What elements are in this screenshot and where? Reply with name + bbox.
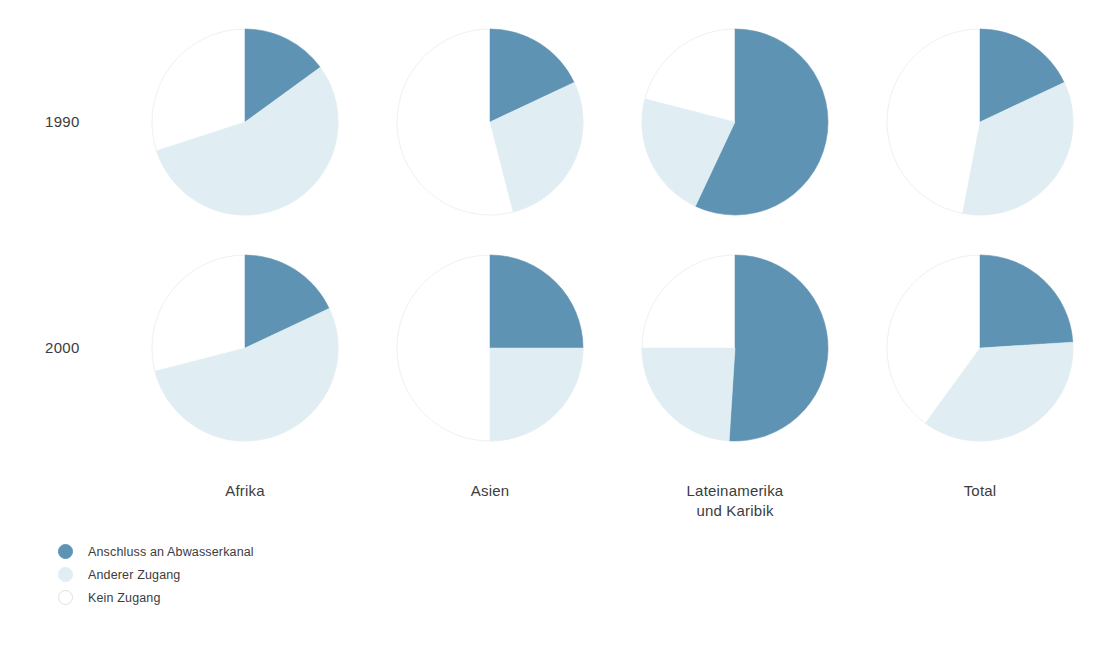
pie-matrix-figure: 1990 2000 Afrika Asien Lateinamerika und… bbox=[0, 0, 1104, 645]
pie-slice-anderer-zugang bbox=[642, 348, 735, 441]
column-label-asien: Asien bbox=[400, 481, 580, 501]
legend-label: Anderer Zugang bbox=[88, 568, 180, 582]
column-label-lateinamerika-und-karibik: Lateinamerika und Karibik bbox=[635, 481, 835, 522]
legend-item-kein-zugang: Kein Zugang bbox=[58, 586, 254, 609]
legend: Anschluss an Abwasserkanal Anderer Zugan… bbox=[58, 540, 254, 609]
pie-slice-anderer-zugang bbox=[490, 348, 583, 441]
pie-chart-1990-asien bbox=[394, 26, 586, 218]
column-label-afrika: Afrika bbox=[155, 481, 335, 501]
legend-label: Anschluss an Abwasserkanal bbox=[88, 545, 254, 559]
column-label-total: Total bbox=[890, 481, 1070, 501]
pie-chart-2000-lateinamerika-und-karibik bbox=[639, 252, 831, 444]
pie-chart-1990-afrika bbox=[149, 26, 341, 218]
pie-chart-2000-total bbox=[884, 252, 1076, 444]
legend-swatch-circle-icon bbox=[58, 567, 73, 582]
legend-item-anderer-zugang: Anderer Zugang bbox=[58, 563, 254, 586]
pie-chart-2000-asien bbox=[394, 252, 586, 444]
pie-chart-1990-lateinamerika-und-karibik bbox=[639, 26, 831, 218]
legend-swatch-circle-icon bbox=[58, 544, 73, 559]
pie-slice-anschluss bbox=[729, 255, 828, 441]
pie-slice-anschluss bbox=[490, 255, 583, 348]
pie-chart-1990-total bbox=[884, 26, 1076, 218]
legend-label: Kein Zugang bbox=[88, 591, 161, 605]
pie-slice-anschluss bbox=[980, 255, 1073, 348]
row-label-2000: 2000 bbox=[45, 339, 80, 356]
pie-chart-2000-afrika bbox=[149, 252, 341, 444]
legend-swatch-circle-icon bbox=[58, 590, 73, 605]
row-label-1990: 1990 bbox=[45, 113, 80, 130]
legend-item-anschluss-an-abwasserkanal: Anschluss an Abwasserkanal bbox=[58, 540, 254, 563]
